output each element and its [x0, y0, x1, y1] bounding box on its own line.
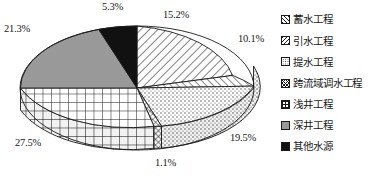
side-wall-kualiuyu [154, 126, 162, 148]
legend-label-qianjing: 浅井工程 [293, 99, 333, 110]
pie-label-xushui: 15.2% [163, 9, 189, 20]
legend-label-kualiuyu: 跨流域调水工程 [293, 78, 362, 89]
pie-label-qitashuiyuan: 5.3% [102, 1, 123, 12]
legend-item-yinshui[interactable]: 引水工程 [281, 30, 377, 51]
legend-swatch-diagonal-backward-hatch-icon [281, 36, 290, 45]
legend-item-qianjing[interactable]: 浅井工程 [281, 94, 377, 115]
legend-label-yinshui: 引水工程 [293, 36, 333, 47]
pie-label-yinshui: 10.1% [238, 33, 264, 44]
legend-label-shenjing: 深井工程 [293, 120, 333, 131]
legend-swatch-diagonal-forward-hatch-icon [281, 15, 290, 24]
legend-item-shenjing[interactable]: 深井工程 [281, 115, 377, 136]
pie-label-kualiuyu: 1.1% [155, 157, 176, 168]
legend-item-qitashuiyuan[interactable]: 其他水源 [281, 136, 377, 157]
pie-label-tishui: 19.5% [230, 132, 256, 143]
legend-swatch-stipple-dots-icon [281, 57, 290, 66]
legend-swatch-solid-black-icon [281, 142, 290, 151]
chart-legend: 蓄水工程 引水工程 提水工程 跨流域调水工程 浅井工程 深井工程 其他水源 [281, 9, 377, 169]
legend-item-xushui[interactable]: 蓄水工程 [281, 9, 377, 30]
pie-label-qianjing: 27.5% [15, 137, 41, 148]
pie-plot-area: 5.3% 15.2% 10.1% 19.5% 1.1% 27.5% 21.3% [0, 0, 272, 176]
pie-graphic [0, 0, 272, 176]
legend-swatch-crosshatch-icon [281, 79, 290, 88]
legend-label-tishui: 提水工程 [293, 57, 333, 68]
legend-item-kualiuyu[interactable]: 跨流域调水工程 [281, 73, 377, 94]
legend-swatch-square-grid-icon [281, 100, 290, 109]
pie-chart: 5.3% 15.2% 10.1% 19.5% 1.1% 27.5% 21.3% … [0, 0, 377, 176]
pie-top-face [20, 26, 253, 128]
pie-label-shenjing: 21.3% [4, 23, 30, 34]
legend-item-tishui[interactable]: 提水工程 [281, 51, 377, 72]
legend-swatch-solid-gray-icon [281, 121, 290, 130]
legend-label-xushui: 蓄水工程 [293, 14, 333, 25]
legend-label-qitashuiyuan: 其他水源 [293, 141, 333, 152]
